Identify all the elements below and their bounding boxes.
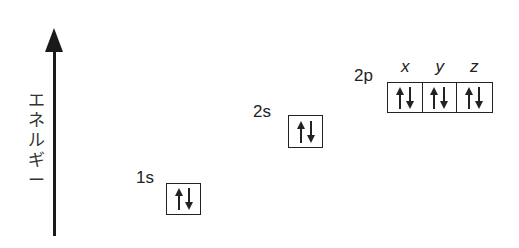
energy-axis-line	[53, 46, 56, 236]
suborbital-label-y: y	[423, 57, 458, 77]
spin-down-arrow-icon	[475, 87, 483, 109]
orbital-label-1s: 1s	[136, 168, 154, 188]
2p-suborbital-labels: x y z	[388, 57, 492, 77]
orbital-box-2pz	[457, 83, 492, 112]
spin-down-arrow-icon	[440, 87, 448, 109]
orbital-box-1s	[166, 183, 201, 215]
spin-down-arrow-icon	[307, 121, 315, 143]
spin-up-arrow-icon	[396, 87, 404, 109]
orbital-label-2p: 2p	[354, 66, 373, 86]
energy-axis-arrowhead-icon	[45, 28, 63, 52]
spin-up-arrow-icon	[297, 121, 305, 143]
spin-up-arrow-icon	[465, 87, 473, 109]
spin-down-arrow-icon	[185, 188, 193, 210]
spin-up-arrow-icon	[430, 87, 438, 109]
orbital-box-2s	[288, 115, 323, 148]
suborbital-label-x: x	[388, 57, 423, 77]
orbital-box-2p	[387, 82, 493, 113]
spin-down-arrow-icon	[406, 87, 414, 109]
energy-axis-label: エ ネ ル ギ ー	[26, 90, 46, 190]
suborbital-label-z: z	[457, 57, 492, 77]
orbital-box-2px	[388, 83, 423, 112]
orbital-label-2s: 2s	[253, 102, 271, 122]
orbital-box-2py	[423, 83, 458, 112]
spin-up-arrow-icon	[175, 188, 183, 210]
